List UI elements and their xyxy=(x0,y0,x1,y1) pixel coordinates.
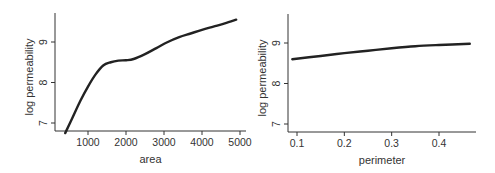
chart-1-y-axis-label: log permeability xyxy=(256,39,268,117)
chart-0-y-tick-label: 7 xyxy=(37,120,49,126)
chart-1-x-tick-label: 0.1 xyxy=(290,137,305,149)
chart-0-x-tick-label: 2000 xyxy=(114,136,138,148)
chart-1-series-line xyxy=(292,44,470,59)
chart-0-x-axis-label: area xyxy=(139,153,162,165)
chart-area-vs-log-permeability: 78910002000300040005000arealog permeabil… xyxy=(23,13,252,165)
chart-0-series-line xyxy=(65,20,236,133)
chart-1-x-axis-label: perimeter xyxy=(359,154,406,166)
figure: 78910002000300040005000arealog permeabil… xyxy=(0,0,495,173)
chart-1-x-tick-label: 0.3 xyxy=(384,137,399,149)
chart-1-y-tick-label: 9 xyxy=(270,40,282,46)
chart-0-y-tick-label: 8 xyxy=(37,79,49,85)
chart-0-y-tick-label: 9 xyxy=(37,39,49,45)
chart-1-y-tick-label: 7 xyxy=(270,121,282,127)
chart-perimeter-vs-log-permeability: 7890.10.20.30.4perimeterlog permeability xyxy=(256,14,476,166)
chart-0-x-tick-label: 1000 xyxy=(76,136,100,148)
chart-0-y-axis-label: log permeability xyxy=(23,38,35,116)
chart-0-x-tick-label: 5000 xyxy=(228,136,252,148)
chart-1-y-tick-label: 8 xyxy=(270,80,282,86)
chart-0-x-tick-label: 4000 xyxy=(190,136,214,148)
chart-0-x-tick-label: 3000 xyxy=(152,136,176,148)
chart-1-x-tick-label: 0.4 xyxy=(432,137,447,149)
chart-1-x-tick-label: 0.2 xyxy=(337,137,352,149)
